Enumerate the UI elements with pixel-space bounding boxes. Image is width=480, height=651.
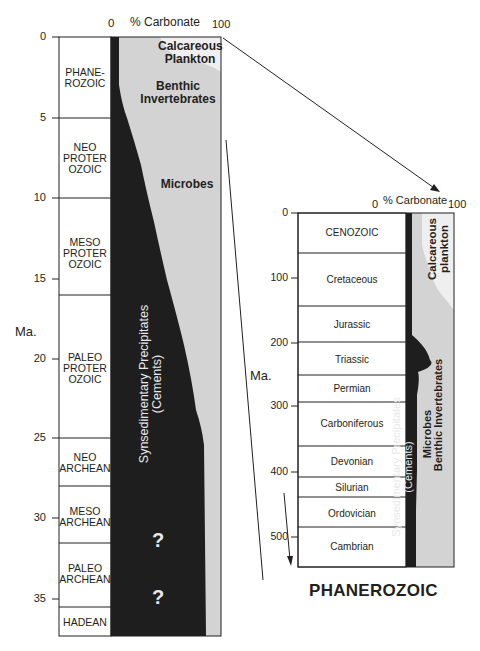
left-tick-10: 10: [22, 191, 46, 203]
eon-phanerozoic: PHANE- ROZOIC: [59, 67, 111, 89]
right-tick-0: 0: [258, 206, 288, 218]
left-label-cements: Synsedimentary Precipitates (Cements): [138, 294, 166, 474]
period-permian: Permian: [299, 383, 405, 394]
right-tick-400: 400: [258, 465, 288, 477]
eon-hadean: HADEAN: [59, 617, 111, 628]
period-cenozoic: CENOZOIC: [299, 227, 405, 238]
left-tick-20: 20: [22, 352, 46, 364]
uncertain-marker-2: ?: [152, 586, 164, 609]
left-axis-min: 0: [108, 17, 114, 29]
left-axis-max: 100: [212, 18, 230, 30]
left-chart-graphic: [0, 0, 480, 651]
left-label-microbes: Microbes: [152, 178, 222, 191]
eon-mesoproterozoic: MESO PROTER OZOIC: [59, 237, 111, 270]
right-tick-100: 100: [258, 271, 288, 283]
eon-paleoarchean: PALEO ARCHEAN: [59, 563, 111, 585]
left-tick-30: 30: [22, 511, 46, 523]
period-cretaceous: Cretaceous: [299, 274, 405, 285]
eon-paleoproterozoic: PALEO PROTER OZOIC: [59, 352, 111, 385]
left-tick-35: 35: [22, 592, 46, 604]
right-label-plankton: Calcareous plankton: [426, 209, 452, 289]
left-axis-title: % Carbonate: [130, 15, 200, 29]
right-y-axis-label: Ma.: [250, 368, 272, 383]
period-jurassic: Jurassic: [299, 319, 405, 330]
period-triassic: Triassic: [299, 354, 405, 365]
left-label-benthic: Benthic Invertebrates: [136, 80, 220, 106]
left-tick-0: 0: [22, 30, 46, 42]
right-label-cements: Synsedimentary Precipitates (Cements): [391, 387, 417, 547]
eon-neoproterozoic: NEO PROTER OZOIC: [59, 142, 111, 175]
left-tick-15: 15: [22, 272, 46, 284]
right-axis-title: % Carbonate: [383, 194, 447, 206]
right-label-benthic: Benthic Invertebrates: [432, 350, 446, 480]
period-cambrian: Cambrian: [299, 541, 405, 552]
right-tick-200: 200: [258, 336, 288, 348]
right-axis-min: 0: [372, 198, 378, 210]
eon-neoarchean: NEO ARCHEAN: [59, 452, 111, 474]
left-tick-25: 25: [22, 431, 46, 443]
uncertain-marker-1: ?: [152, 529, 164, 552]
right-tick-300: 300: [258, 399, 288, 411]
right-tick-500: 500: [258, 530, 288, 542]
phanerozoic-title: PHANEROZOIC: [309, 581, 438, 601]
left-label-plankton: Calcareous Plankton: [158, 40, 222, 66]
left-y-axis-label: Ma.: [15, 324, 37, 339]
left-tick-5: 5: [22, 111, 46, 123]
eon-mesoarchean: MESO ARCHEAN: [59, 506, 111, 528]
